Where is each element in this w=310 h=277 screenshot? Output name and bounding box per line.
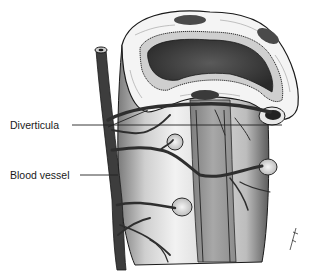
label-blood-vessel: Blood vessel <box>10 170 70 181</box>
label-diverticula: Diverticula <box>10 120 59 131</box>
artist-signature <box>290 228 298 250</box>
colon-illustration <box>0 0 310 277</box>
diagram-canvas: Diverticula Blood vessel <box>0 0 310 277</box>
